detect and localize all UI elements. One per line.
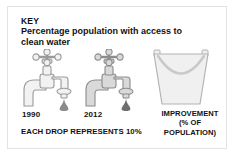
improvement-line-3: POPULATION) [152,128,228,137]
improvement-line-2: (% OF [152,118,228,127]
legend-subtitle: Percentage population with access to cle… [21,26,203,48]
faucet-icon [82,49,134,111]
legend-panel: KEY Percentage population with access to… [7,6,227,149]
page-title: KEY [21,16,216,26]
year-label-1990: 1990 [22,110,40,119]
tap-unit-1990 [20,49,72,111]
year-label-2012: 2012 [84,110,102,119]
title-block: KEY Percentage population with access to… [21,16,216,48]
improvement-line-1: IMPROVEMENT [152,109,228,118]
tap-unit-2012 [82,49,134,111]
drop-key-caption: EACH DROP REPRESENTS 10% [21,127,142,136]
water-drop-icon [60,98,69,111]
legend-graphics [8,47,228,107]
water-drop-icon [122,98,131,111]
bucket-unit [150,47,212,107]
bucket-icon [150,47,212,107]
faucet-icon [20,49,72,111]
improvement-caption: IMPROVEMENT (% OF POPULATION) [152,109,228,137]
